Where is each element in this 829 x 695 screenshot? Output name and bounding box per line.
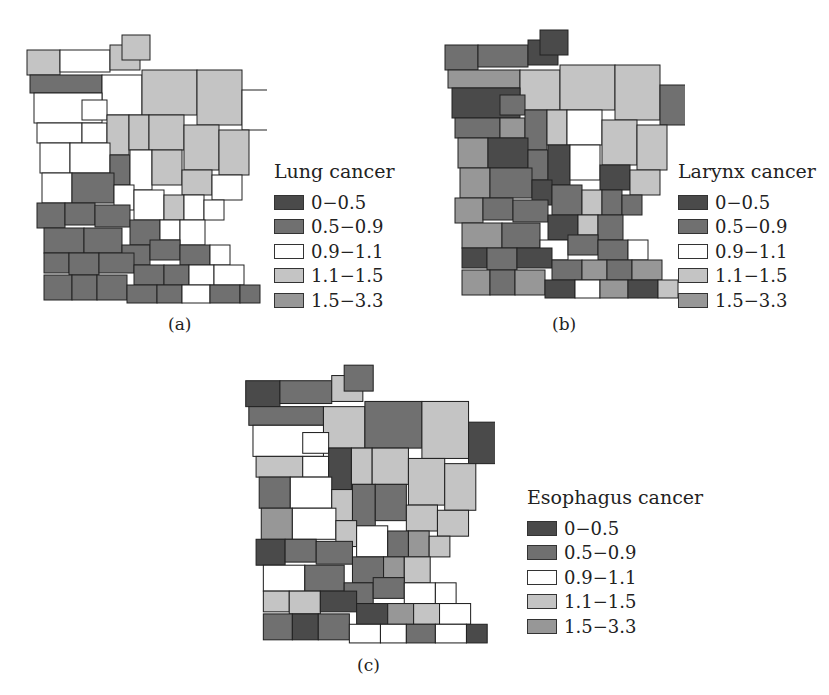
legend-label: 0.9−1.1 bbox=[311, 241, 383, 262]
swatch-0.9-1.1 bbox=[678, 244, 708, 259]
county bbox=[630, 170, 660, 195]
legend-label: 1.1−1.5 bbox=[564, 591, 636, 612]
county bbox=[435, 583, 456, 604]
county bbox=[408, 531, 429, 557]
county bbox=[440, 604, 471, 625]
county bbox=[37, 123, 82, 143]
legend-item: 0−0.5 bbox=[678, 190, 816, 215]
legend-label: 1.1−1.5 bbox=[715, 265, 787, 286]
county bbox=[462, 248, 487, 268]
county bbox=[365, 401, 422, 448]
county bbox=[404, 583, 435, 604]
county bbox=[290, 477, 331, 508]
county bbox=[462, 270, 490, 295]
county bbox=[210, 285, 240, 303]
county bbox=[44, 228, 84, 253]
county bbox=[487, 248, 517, 270]
county bbox=[134, 190, 164, 220]
county bbox=[152, 150, 182, 185]
county bbox=[600, 280, 628, 298]
county bbox=[375, 484, 406, 520]
county bbox=[129, 115, 149, 150]
swatch-1.1-1.5 bbox=[527, 594, 557, 609]
county bbox=[570, 145, 600, 180]
county bbox=[628, 240, 648, 260]
county bbox=[462, 223, 502, 248]
county bbox=[632, 260, 662, 280]
minnesota-county-map bbox=[240, 360, 495, 645]
county bbox=[500, 118, 525, 138]
swatch-0-0.5 bbox=[678, 195, 708, 210]
county bbox=[567, 110, 602, 145]
county bbox=[658, 280, 678, 298]
county bbox=[249, 407, 324, 426]
county bbox=[182, 285, 210, 303]
county bbox=[189, 265, 214, 285]
county bbox=[435, 624, 466, 643]
county bbox=[552, 260, 582, 280]
minnesota-county-map bbox=[22, 30, 267, 305]
swatch-0.5-0.9 bbox=[527, 545, 557, 560]
county bbox=[513, 200, 548, 222]
county bbox=[180, 245, 210, 265]
county bbox=[44, 275, 72, 300]
county bbox=[240, 285, 260, 303]
swatch-1.5-3.3 bbox=[274, 293, 304, 308]
legend-item: 0−0.5 bbox=[527, 516, 703, 541]
county bbox=[515, 270, 545, 295]
county bbox=[95, 205, 130, 227]
county bbox=[303, 433, 329, 454]
county bbox=[460, 168, 490, 198]
county bbox=[263, 565, 304, 591]
county bbox=[256, 456, 303, 477]
county bbox=[372, 448, 408, 484]
county bbox=[422, 401, 469, 458]
county bbox=[212, 175, 242, 200]
county bbox=[600, 165, 630, 190]
county bbox=[102, 75, 142, 115]
county bbox=[323, 407, 364, 448]
county bbox=[622, 195, 642, 215]
county bbox=[384, 557, 405, 578]
county bbox=[483, 198, 513, 220]
county bbox=[547, 110, 567, 145]
swatch-0.5-0.9 bbox=[274, 219, 304, 234]
legend-label: 0−0.5 bbox=[715, 192, 770, 213]
county bbox=[82, 123, 107, 143]
map-esophagus-cancer bbox=[240, 360, 495, 645]
legend-item: 0−0.5 bbox=[274, 190, 394, 215]
county bbox=[99, 253, 134, 273]
swatch-1.5-3.3 bbox=[678, 293, 708, 308]
county bbox=[575, 280, 600, 298]
legend-item: 1.5−3.3 bbox=[527, 614, 703, 639]
county bbox=[263, 614, 292, 640]
legend-label: 0.5−0.9 bbox=[311, 216, 383, 237]
legend-label: 0.5−0.9 bbox=[715, 216, 787, 237]
county bbox=[303, 456, 329, 477]
county bbox=[582, 260, 607, 280]
legend-title: Larynx cancer bbox=[678, 160, 816, 182]
county bbox=[406, 505, 437, 531]
county bbox=[478, 45, 528, 67]
legend-item: 0.9−1.1 bbox=[678, 239, 816, 264]
county bbox=[242, 90, 267, 130]
county bbox=[42, 173, 72, 203]
county bbox=[637, 125, 667, 170]
legend-esophagus-cancer: Esophagus cancer 0−0.5 0.5−0.9 0.9−1.1 1… bbox=[527, 486, 703, 639]
county bbox=[150, 240, 180, 260]
county bbox=[197, 70, 242, 125]
legend-lung-cancer: Lung cancer 0−0.5 0.5−0.9 0.9−1.1 1.1−1.… bbox=[274, 160, 394, 313]
legend-label: 1.5−3.3 bbox=[564, 616, 636, 637]
county bbox=[256, 539, 285, 565]
county bbox=[628, 280, 658, 298]
county bbox=[545, 280, 575, 298]
county bbox=[502, 223, 540, 248]
county bbox=[316, 541, 352, 564]
county bbox=[180, 220, 205, 245]
county bbox=[285, 539, 316, 562]
county bbox=[598, 240, 628, 260]
county bbox=[388, 604, 414, 625]
county bbox=[615, 65, 660, 120]
legend-larynx-cancer: Larynx cancer 0−0.5 0.5−0.9 0.9−1.1 1.1−… bbox=[678, 160, 816, 313]
swatch-1.5-3.3 bbox=[527, 619, 557, 634]
